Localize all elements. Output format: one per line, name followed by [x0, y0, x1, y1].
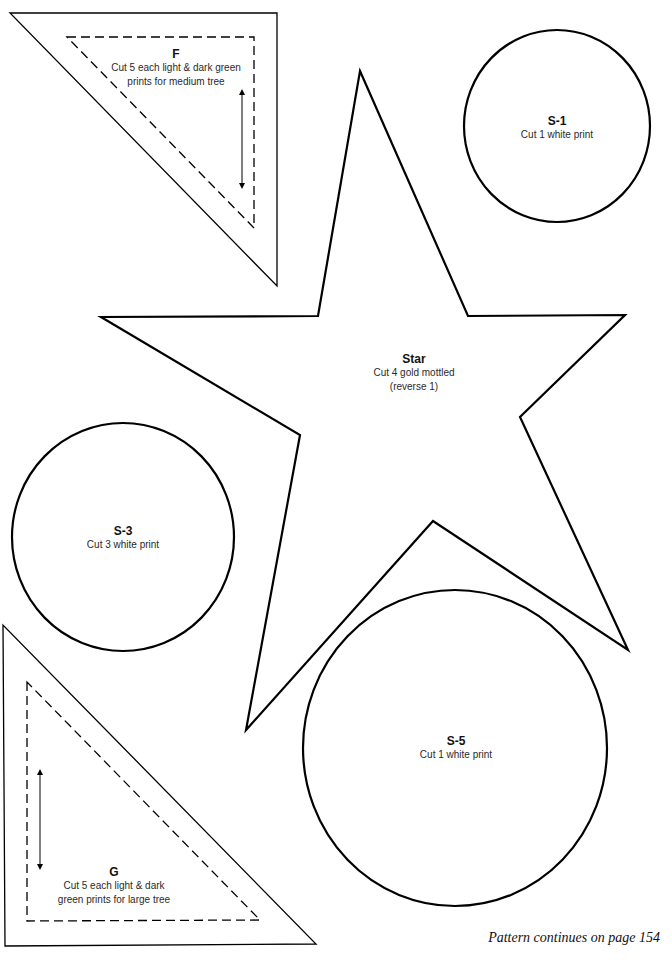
piece-g-instruction-2: green prints for large tree [58, 893, 170, 907]
piece-star-instruction-2: (reverse 1) [373, 380, 454, 394]
piece-s5-label: S-5 Cut 1 white print [420, 734, 492, 762]
piece-s1-instruction-1: Cut 1 white print [521, 128, 593, 142]
piece-s3-title: S-3 [87, 524, 159, 538]
pattern-canvas [0, 0, 672, 962]
piece-star-instruction-1: Cut 4 gold mottled [373, 366, 454, 380]
piece-s5-title: S-5 [420, 734, 492, 748]
template-piece-star [101, 71, 628, 730]
piece-star-title: Star [373, 352, 454, 366]
piece-f-instruction-2: prints for medium tree [111, 75, 241, 89]
continuation-note: Pattern continues on page 154 [488, 930, 660, 946]
piece-f-title: F [111, 47, 241, 61]
piece-s1-title: S-1 [521, 114, 593, 128]
piece-star-label: Star Cut 4 gold mottled (reverse 1) [373, 352, 454, 394]
piece-f-label: F Cut 5 each light & dark green prints f… [111, 47, 241, 89]
piece-s3-label: S-3 Cut 3 white print [87, 524, 159, 552]
piece-g-label: G Cut 5 each light & dark green prints f… [58, 865, 170, 907]
piece-f-instruction-1: Cut 5 each light & dark green [111, 61, 241, 75]
piece-s3-instruction-1: Cut 3 white print [87, 538, 159, 552]
piece-g-instruction-1: Cut 5 each light & dark [58, 879, 170, 893]
piece-s5-instruction-1: Cut 1 white print [420, 748, 492, 762]
piece-s1-label: S-1 Cut 1 white print [521, 114, 593, 142]
piece-g-title: G [58, 865, 170, 879]
